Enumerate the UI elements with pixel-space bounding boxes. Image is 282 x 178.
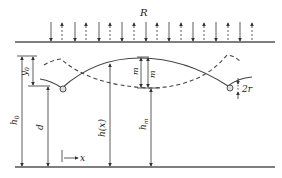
hm-label: hm <box>138 118 149 130</box>
d-label: d <box>35 124 45 130</box>
h0-label: h0 <box>9 115 20 125</box>
down-arrows <box>51 22 240 41</box>
up-arrows <box>62 23 252 40</box>
load-label-r: R <box>139 7 148 18</box>
dashed-curve <box>44 55 241 88</box>
right-cylinder <box>227 85 233 91</box>
hx-label: h(x) <box>97 119 107 137</box>
m-left-label: m <box>131 67 140 75</box>
m-right-label: m <box>148 70 157 78</box>
diagram-canvas: R y0 h0 d h(x) m m hm 2r <box>0 0 282 178</box>
two-r-label: 2r <box>241 84 253 94</box>
left-cylinder <box>60 86 66 92</box>
y0-label: y0 <box>19 67 30 77</box>
x-axis-label: x <box>80 153 85 163</box>
